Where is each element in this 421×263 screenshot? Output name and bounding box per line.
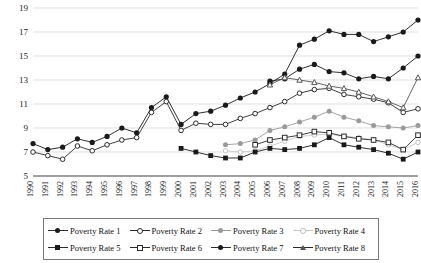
data-point-marker: [179, 146, 184, 151]
data-point-marker: [356, 76, 361, 81]
data-point-marker: [253, 143, 258, 148]
data-point-marker: [415, 53, 420, 58]
data-point-marker: [179, 128, 184, 133]
data-point-marker: [282, 99, 287, 104]
series-7: [267, 53, 420, 83]
x-axis-tick-label: 2013: [367, 181, 376, 197]
data-point-marker: [282, 135, 287, 140]
data-point-marker: [371, 74, 376, 79]
data-point-marker: [356, 137, 361, 142]
legend-row-2: Poverty Rate 5 Poverty Rate 6 Poverty Ra…: [48, 239, 374, 256]
data-point-marker: [238, 150, 242, 154]
data-point-marker: [401, 157, 406, 162]
legend-item-poverty-rate-2[interactable]: Poverty Rate 2: [130, 222, 212, 239]
data-point-marker: [356, 95, 361, 100]
x-axis-tick-label: 2009: [307, 181, 316, 197]
x-axis-tick-label: 2016: [411, 181, 420, 197]
filled-square-icon: [48, 242, 68, 253]
data-point-marker: [312, 62, 317, 67]
x-axis-tick-label: 2010: [322, 181, 331, 197]
data-point-marker: [31, 150, 36, 155]
data-point-marker: [194, 121, 199, 126]
legend-item-poverty-rate-1[interactable]: Poverty Rate 1: [48, 222, 130, 239]
open-circle-light-icon: [293, 225, 313, 236]
x-axis-tick-label: 2012: [352, 181, 361, 197]
data-point-marker: [401, 110, 406, 115]
data-point-marker: [238, 156, 243, 161]
data-point-marker: [386, 99, 391, 104]
legend-item-poverty-rate-4[interactable]: Poverty Rate 4: [293, 222, 375, 239]
data-point-marker: [386, 34, 391, 39]
data-point-marker: [312, 87, 317, 92]
series-line: [33, 20, 418, 150]
legend-item-poverty-rate-7[interactable]: Poverty Rate 7: [211, 239, 293, 256]
data-point-marker: [371, 94, 376, 99]
data-point-marker: [193, 150, 198, 155]
legend-item-poverty-rate-3[interactable]: Poverty Rate 3: [211, 222, 293, 239]
data-point-marker: [60, 157, 65, 162]
data-point-marker: [105, 143, 110, 148]
data-point-marker: [164, 99, 169, 104]
x-axis-tick-label: 2002: [204, 181, 213, 197]
data-point-marker: [60, 145, 65, 150]
data-point-marker: [326, 83, 331, 88]
y-axis-tick-label: 13: [19, 75, 29, 85]
data-point-marker: [416, 123, 421, 128]
legend-label: Poverty Rate 4: [313, 226, 366, 236]
x-axis-tick-label: 2001: [189, 181, 198, 197]
data-point-marker: [356, 145, 361, 150]
data-point-marker: [415, 17, 420, 22]
y-axis-tick-label: 7: [24, 147, 29, 157]
y-axis-tick-label: 17: [19, 27, 29, 37]
legend-label: Poverty Rate 5: [68, 243, 121, 253]
data-point-marker: [268, 146, 273, 151]
open-square-icon: [130, 242, 150, 253]
data-point-marker: [401, 29, 406, 34]
data-point-marker: [149, 110, 154, 115]
series-6: [253, 129, 420, 152]
data-point-marker: [119, 125, 124, 130]
data-point-marker: [90, 149, 95, 154]
legend-item-poverty-rate-5[interactable]: Poverty Rate 5: [48, 239, 130, 256]
data-point-marker: [120, 138, 125, 143]
line-chart-svg: 5791113151719199019911992199319941995199…: [0, 0, 421, 200]
x-axis-tick-label: 2015: [396, 181, 405, 197]
legend-label: Poverty Rate 7: [231, 243, 284, 253]
data-point-marker: [223, 156, 228, 161]
legend-label: Poverty Rate 1: [68, 226, 121, 236]
data-point-marker: [253, 150, 258, 155]
x-axis-tick-label: 1998: [144, 181, 153, 197]
data-point-marker: [342, 92, 347, 97]
data-point-marker: [312, 142, 317, 147]
data-point-marker: [415, 75, 420, 80]
legend-row-1: Poverty Rate 1 Poverty Rate 2 Poverty Ra…: [48, 222, 374, 239]
data-point-marker: [253, 111, 258, 116]
data-point-marker: [297, 91, 302, 96]
chart-page: 5791113151719199019911992199319941995199…: [0, 0, 421, 263]
data-point-marker: [208, 153, 213, 158]
legend-label: Poverty Rate 3: [231, 226, 284, 236]
data-point-marker: [268, 105, 273, 110]
data-point-marker: [282, 124, 287, 129]
data-point-marker: [371, 39, 376, 44]
legend-label: Poverty Rate 6: [150, 243, 203, 253]
data-point-marker: [223, 103, 228, 108]
legend-item-poverty-rate-6[interactable]: Poverty Rate 6: [130, 239, 212, 256]
legend-item-poverty-rate-8[interactable]: Poverty Rate 8: [293, 239, 375, 256]
data-point-marker: [327, 28, 332, 33]
x-axis-tick-label: 1995: [100, 181, 109, 197]
data-point-marker: [223, 149, 227, 153]
data-point-marker: [401, 126, 406, 131]
x-axis-tick-label: 2014: [381, 181, 390, 197]
data-point-marker: [386, 76, 391, 81]
data-point-marker: [312, 115, 317, 120]
data-point-marker: [297, 43, 302, 48]
x-axis-tick-label: 1990: [26, 181, 35, 197]
x-axis-tick-label: 1991: [41, 181, 50, 197]
data-point-marker: [268, 138, 273, 143]
legend-label: Poverty Rate 2: [150, 226, 203, 236]
data-point-marker: [356, 89, 361, 94]
x-axis-tick-label: 2005: [248, 181, 257, 197]
legend-label: Poverty Rate 8: [313, 243, 366, 253]
x-axis-tick-label: 2008: [293, 181, 302, 197]
